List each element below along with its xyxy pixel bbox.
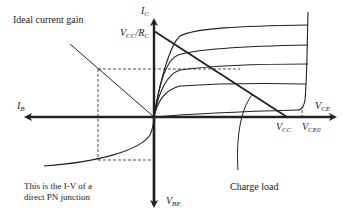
charge-load-label: Charge load [230,181,278,192]
vcc-label: VCC [276,121,291,136]
pn-junction-note: This is the I-V of a direct PN junction [24,181,92,203]
output-curves [154,12,308,117]
vbe-axis-label: VBE [166,195,181,210]
ib-axis-label: IB [17,100,25,115]
vce-axis-label: VCE [315,100,330,115]
ideal-gain-label: Ideal current gain [13,14,84,25]
ic-axis-label: IC [141,5,149,20]
ideal-gain-line [70,44,154,117]
pn-note-line2: direct PN junction [24,192,92,203]
pn-note-line1: This is the I-V of a [24,181,92,192]
charge-load-pointer [238,95,252,170]
pn-junction-curve [44,117,154,166]
load-line [154,31,287,117]
vcc-rc-label: VCC/RC [120,27,149,42]
dashed-guides [98,69,302,160]
vceo-label: VCE0 [302,121,321,136]
